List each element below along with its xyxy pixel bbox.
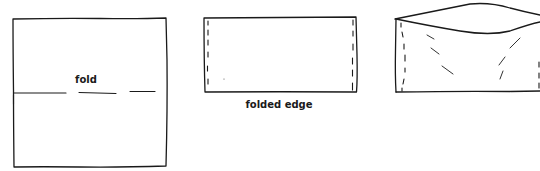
pocket-bottom bbox=[396, 91, 540, 92]
fold-label: fold bbox=[75, 74, 97, 85]
diagram-canvas bbox=[0, 0, 540, 171]
pocket-inner-marks-right bbox=[499, 38, 520, 79]
figure-square bbox=[13, 18, 167, 167]
right-fold-dashes bbox=[353, 20, 354, 90]
figure-folded-rectangle bbox=[204, 17, 357, 92]
pocket-left-dashes bbox=[401, 23, 405, 91]
pocket-top-flap bbox=[395, 4, 540, 20]
pocket-left-side bbox=[395, 19, 396, 92]
pocket-inner-marks-left bbox=[427, 35, 453, 74]
figure-opened-pocket bbox=[395, 4, 540, 93]
pocket-opening-curve bbox=[396, 19, 540, 34]
rectangle-outline bbox=[204, 17, 357, 92]
fold-dashed-line bbox=[14, 92, 156, 105]
left-fold-dashes bbox=[208, 21, 209, 84]
speck bbox=[223, 78, 224, 79]
folded-edge-label: folded edge bbox=[245, 99, 312, 110]
